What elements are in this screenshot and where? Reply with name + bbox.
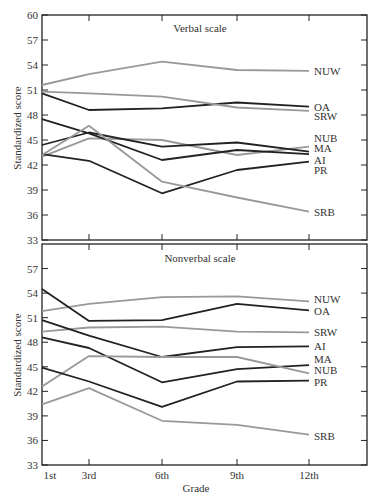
y-tick-label: 33 xyxy=(27,234,39,246)
series-line-pr xyxy=(42,154,309,193)
y-tick-label: 39 xyxy=(27,184,39,196)
series-line-ai xyxy=(42,320,309,357)
series-line-nub xyxy=(42,138,309,156)
chart-figure: 33363942454851545760Verbal scaleNUWOASRW… xyxy=(0,0,378,500)
panel-title: Nonverbal scale xyxy=(164,252,235,264)
x-tick-label: 3rd xyxy=(82,469,97,481)
series-line-srw xyxy=(42,327,309,333)
y-tick-label: 57 xyxy=(27,34,39,46)
series-label-srw: SRW xyxy=(314,326,338,338)
y-tick-label: 45 xyxy=(27,134,39,146)
y-tick-label: 45 xyxy=(27,361,39,373)
series-label-nuw: NUW xyxy=(314,293,341,305)
series-label-pr: PR xyxy=(314,376,328,388)
series-line-oa xyxy=(42,93,309,110)
y-axis-title-verbal: Standardized score xyxy=(11,86,23,169)
x-tick-label: 6th xyxy=(155,469,170,481)
y-tick-label: 36 xyxy=(27,434,39,446)
y-tick-label: 54 xyxy=(27,59,39,71)
verbal-panel: 33363942454851545760Verbal scaleNUWOASRW… xyxy=(27,9,367,246)
series-label-ma: MA xyxy=(314,142,332,154)
nonverbal-panel: 3336394245485154571st3rd6th9th12thNonver… xyxy=(27,244,367,481)
y-tick-label: 42 xyxy=(27,159,38,171)
series-line-pr xyxy=(42,368,309,407)
series-label-oa: OA xyxy=(314,305,330,317)
y-tick-label: 39 xyxy=(27,410,39,422)
y-tick-label: 36 xyxy=(27,209,39,221)
y-tick-label: 60 xyxy=(27,9,39,21)
series-line-srb xyxy=(42,126,309,212)
y-tick-label: 42 xyxy=(27,385,38,397)
y-tick-label: 48 xyxy=(27,336,39,348)
y-tick-label: 51 xyxy=(27,312,38,324)
x-axis-title: Grade xyxy=(183,482,210,494)
x-tick-label: 12th xyxy=(299,469,319,481)
series-label-srb: SRB xyxy=(314,206,335,218)
y-tick-label: 54 xyxy=(27,287,39,299)
x-tick-label: 1st xyxy=(44,469,57,481)
series-label-nuw: NUW xyxy=(314,65,341,77)
x-tick-label: 9th xyxy=(230,469,245,481)
series-label-pr: PR xyxy=(314,164,328,176)
y-tick-label: 51 xyxy=(27,84,38,96)
series-label-srw: SRW xyxy=(314,110,338,122)
series-line-nuw xyxy=(42,62,309,85)
y-axis-title-nonverbal: Standardized score xyxy=(11,313,23,396)
series-label-ai: AI xyxy=(314,340,326,352)
series-line-nuw xyxy=(42,296,309,311)
series-line-srb xyxy=(42,388,309,435)
series-label-srb: SRB xyxy=(314,430,335,442)
y-tick-label: 33 xyxy=(27,459,39,471)
series-label-nub: NUB xyxy=(314,364,337,376)
y-tick-label: 57 xyxy=(27,263,39,275)
panel-title: Verbal scale xyxy=(173,22,227,34)
series-line-ai xyxy=(42,119,309,160)
y-tick-label: 48 xyxy=(27,109,39,121)
